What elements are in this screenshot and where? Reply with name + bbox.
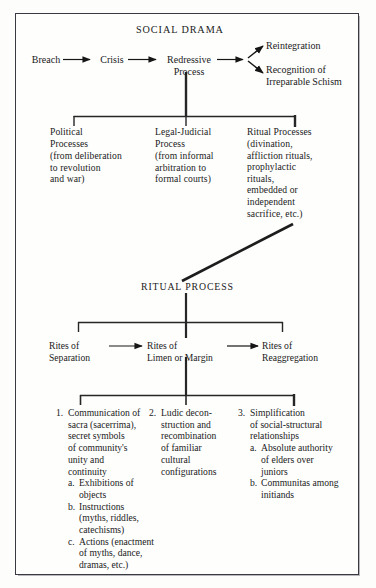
sub-marker: b.	[68, 501, 79, 536]
node-crisis: Crisis	[94, 54, 130, 66]
node-irreparable-schism: Recognition of Irreparable Schism	[266, 64, 362, 88]
list-marker: 3.	[238, 407, 250, 442]
sub-marker: a.	[68, 477, 79, 500]
list-item-3: 3. Simplification of social-structural r…	[238, 407, 358, 501]
sub-item: c. Actions (enactment of myths, dance, d…	[68, 536, 161, 571]
sub-item: a. Exhibitions of objects	[68, 477, 161, 500]
sub-text: Instructions (myths, riddles, catechisms…	[79, 501, 161, 536]
branch-political-heading: Political Processes	[50, 126, 155, 149]
node-rites-of-reaggregation: Rites of Reaggregation	[262, 340, 354, 364]
node-redressive-process: Redressive Process	[160, 54, 218, 78]
node-reintegration: Reintegration	[266, 40, 358, 52]
branch-legal-judicial-detail: (from informal arbitration to formal cou…	[155, 150, 255, 185]
sub-item: b. Communitas among initiands	[250, 477, 358, 500]
list-text: Communication of sacra (sacerrima), secr…	[68, 407, 161, 477]
page-title: SOCIAL DRAMA	[136, 24, 224, 35]
sub-marker: b.	[250, 477, 261, 500]
sub-item: b. Instructions (myths, riddles, catechi…	[68, 501, 161, 536]
list-marker: 1.	[56, 407, 68, 477]
sub-marker: c.	[68, 536, 79, 571]
branch-legal-judicial-heading: Legal-Judicial Process	[155, 126, 255, 149]
branch-ritual-processes-detail: (divination, affliction rituals, prophyl…	[247, 138, 355, 219]
node-breach: Breach	[28, 54, 64, 66]
sub-marker: a.	[250, 442, 261, 477]
node-rites-of-separation: Rites of Separation	[49, 340, 111, 364]
list-item-1: 1. Communication of sacra (sacerrima), s…	[56, 407, 161, 571]
node-rites-of-limen: Rites of Limen or Margin	[147, 340, 239, 364]
sub-text: Communitas among initiands	[261, 477, 358, 500]
list-marker: 2.	[149, 407, 161, 477]
list-text: Simplification of social-structural rela…	[250, 407, 358, 442]
sub-text: Actions (enactment of myths, dance, dram…	[79, 536, 161, 571]
branch-political-detail: (from deliberation to revolution and war…	[50, 150, 162, 185]
sub-text: Absolute authority of elders over junior…	[261, 442, 358, 477]
sub-text: Exhibitions of objects	[79, 477, 161, 500]
social-drama-diagram: SOCIAL DRAMA RITUAL PROCESS Breach Crisi…	[0, 0, 376, 588]
ritual-process-title: RITUAL PROCESS	[141, 281, 234, 292]
list-text: Ludic decon- struction and recombination…	[161, 407, 239, 477]
list-item-2: 2. Ludic decon- struction and recombinat…	[149, 407, 239, 477]
branch-ritual-processes-heading: Ritual Processes	[247, 126, 355, 138]
sub-item: a. Absolute authority of elders over jun…	[250, 442, 358, 477]
